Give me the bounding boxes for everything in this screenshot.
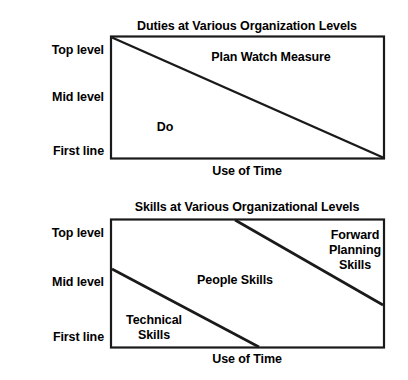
skills-plot-area	[0, 0, 408, 380]
skills-region-label-upper: Forward Planning Skills	[320, 228, 390, 273]
skills-region-label-middle: People Skills	[175, 273, 295, 288]
skills-x-axis-label: Use of Time	[110, 352, 384, 366]
skills-region-label-lower: Technical Skills	[118, 313, 190, 343]
skills-diagram: Skills at Various Organizational Levels …	[0, 0, 408, 380]
